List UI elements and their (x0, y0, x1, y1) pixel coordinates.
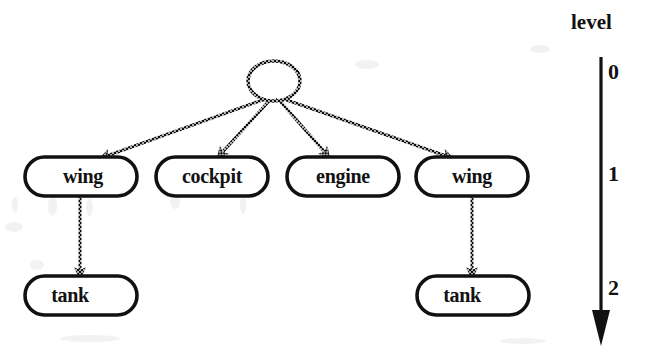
node-wing-right[interactable]: wing (416, 157, 528, 196)
node-tank-right[interactable]: tank (417, 276, 529, 315)
node-wing-right-label: wing (452, 165, 492, 188)
node-root[interactable] (248, 61, 300, 101)
level-axis-arrowhead (592, 310, 610, 346)
node-wing-left[interactable]: wing (25, 157, 137, 196)
edge-root-to-wing-right (284, 99, 452, 158)
edge-group (80, 99, 472, 277)
level-axis-title: level (571, 10, 612, 34)
edge-root-to-wing-left (101, 99, 265, 158)
level-tick-0: 0 (608, 59, 619, 84)
edge-root-to-engine (279, 100, 329, 157)
node-tank-left-label: tank (51, 284, 90, 306)
level-axis: level 0 1 2 (571, 10, 619, 346)
node-cockpit-label: cockpit (182, 165, 243, 188)
node-wing-left-label: wing (63, 165, 103, 188)
level-tick-1: 1 (608, 161, 619, 186)
node-cockpit[interactable]: cockpit (156, 157, 268, 196)
node-tank-left[interactable]: tank (25, 276, 137, 315)
level-tick-2: 2 (608, 275, 619, 300)
part-decomposition-diagram: wing cockpit engine wing tank tank level… (0, 0, 646, 355)
node-engine-label: engine (316, 165, 370, 188)
node-tank-right-label: tank (443, 284, 482, 306)
node-root-shape (248, 61, 300, 101)
node-engine[interactable]: engine (287, 157, 399, 196)
edge-root-to-cockpit (218, 100, 270, 157)
